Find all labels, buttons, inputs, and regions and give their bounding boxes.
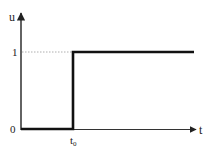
x-tick-label-t0: t0: [70, 134, 77, 148]
x-axis-label: t: [199, 123, 203, 137]
step-function-chart: u 1 0 t t0: [0, 0, 212, 152]
y-tick-label-one: 1: [12, 46, 18, 58]
origin-label: 0: [10, 123, 16, 135]
step-function-line: [21, 52, 194, 129]
y-axis-label: u: [9, 10, 15, 24]
t0-subscript: 0: [73, 140, 77, 148]
